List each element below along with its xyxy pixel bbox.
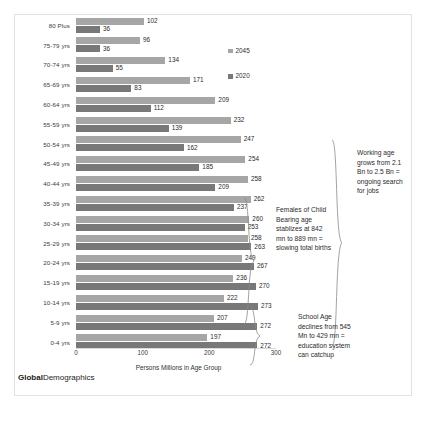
bar-2045 (76, 57, 165, 64)
bar-2045 (76, 77, 190, 84)
bar-2045 (76, 136, 241, 143)
bar-2045 (76, 117, 231, 124)
bar-value-label: 232 (234, 117, 245, 123)
bar-value-label: 254 (248, 156, 259, 162)
category-label: 65-69 yrs (14, 82, 76, 88)
bar-value-label: 36 (103, 46, 110, 52)
bar-2045 (76, 275, 233, 282)
x-tick-label: 300 (271, 350, 282, 356)
bar-value-label: 96 (143, 37, 150, 43)
legend-item-2045: 2045 (228, 48, 288, 54)
x-tick-label: 100 (137, 350, 148, 356)
bar-value-label: 185 (202, 164, 213, 170)
chart-row: 30-34 yrs260253 (14, 214, 276, 234)
category-label: 15-19 yrs (14, 280, 76, 286)
legend-label: 2045 (236, 48, 250, 54)
bar-2045 (76, 255, 242, 262)
category-label: 0-4 yrs (14, 340, 76, 346)
bar-2020 (76, 263, 254, 270)
bar-2045 (76, 156, 245, 163)
females-child-bearing-note: Females of Child Bearing age stablizes a… (276, 205, 332, 253)
row-bars: 10236 (76, 16, 276, 36)
bar-value-label: 258 (251, 176, 262, 182)
category-label: 50-54 yrs (14, 142, 76, 148)
bar-2020 (76, 105, 151, 112)
bar-value-label: 162 (187, 145, 198, 151)
legend: 2045 2020 (228, 48, 288, 99)
bar-2020 (76, 184, 215, 191)
school-age-note: School Age declines from 545 Mn to 429 m… (298, 312, 358, 360)
chart-row: 55-59 yrs232139 (14, 115, 276, 135)
bar-value-label: 197 (210, 334, 221, 340)
bar-2020 (76, 45, 100, 52)
bar-2020 (76, 224, 245, 231)
bar-2020 (76, 144, 184, 151)
bar-value-label: 270 (259, 283, 270, 289)
category-label: 40-44 yrs (14, 181, 76, 187)
bar-value-label: 209 (218, 184, 229, 190)
bar-2020 (76, 323, 257, 330)
bar-value-label: 102 (147, 18, 158, 24)
x-tick-label: 0 (74, 350, 78, 356)
category-label: 20-24 yrs (14, 260, 76, 266)
category-label: 35-39 yrs (14, 201, 76, 207)
chart-row: 80 Plus10236 (14, 16, 276, 36)
category-label: 10-14 yrs (14, 300, 76, 306)
chart-row: 25-29 yrs258263 (14, 234, 276, 254)
bar-2020 (76, 164, 199, 171)
bar-2020 (76, 283, 256, 290)
category-label: 25-29 yrs (14, 241, 76, 247)
brand-bold: Global (18, 373, 43, 382)
category-label: 70-74 yrs (14, 62, 76, 68)
legend-item-2020: 2020 (228, 73, 288, 79)
row-bars: 258209 (76, 174, 276, 194)
working-age-note: Working age grows from 2.1 Bn to 2.5 Bn … (357, 148, 409, 196)
bar-2045 (76, 216, 249, 223)
legend-swatch-icon (228, 74, 233, 79)
chart-row: 35-39 yrs262237 (14, 194, 276, 214)
x-axis-line (76, 348, 276, 349)
category-label: 60-64 yrs (14, 102, 76, 108)
bar-2020 (76, 65, 113, 72)
brand-logo: GlobalDemographics (18, 374, 94, 382)
row-bars: 232139 (76, 115, 276, 135)
bar-value-label: 207 (217, 315, 228, 321)
category-label: 30-34 yrs (14, 221, 76, 227)
bar-value-label: 171 (193, 77, 204, 83)
legend-swatch-icon (228, 49, 233, 54)
bar-value-label: 36 (103, 26, 110, 32)
bar-value-label: 273 (261, 303, 272, 309)
chart-row: 50-54 yrs247162 (14, 135, 276, 155)
bar-2045 (76, 176, 248, 183)
category-label: 80 Plus (14, 23, 76, 29)
bar-2020 (76, 125, 169, 132)
bar-value-label: 55 (116, 65, 123, 71)
chart-row: 40-44 yrs258209 (14, 174, 276, 194)
category-label: 45-49 yrs (14, 161, 76, 167)
bar-2020 (76, 26, 100, 33)
bar-2020 (76, 303, 258, 310)
bar-2045 (76, 97, 215, 104)
bar-2045 (76, 196, 251, 203)
bar-value-label: 139 (172, 125, 183, 131)
bar-2045 (76, 334, 207, 341)
row-bars: 254185 (76, 155, 276, 175)
chart-row: 20-24 yrs249267 (14, 254, 276, 274)
category-label: 75-79 yrs (14, 43, 76, 49)
bar-value-label: 247 (244, 136, 255, 142)
chart-row: 15-19 yrs236270 (14, 273, 276, 293)
chart-row: 5-9 yrs207272 (14, 313, 276, 333)
bar-value-label: 267 (257, 263, 268, 269)
chart-row: 10-14 yrs222273 (14, 293, 276, 313)
category-label: 5-9 yrs (14, 320, 76, 326)
chart-row: 45-49 yrs254185 (14, 155, 276, 175)
bar-2045 (76, 37, 140, 44)
brace-school-age-icon (248, 305, 262, 367)
bar-value-label: 112 (154, 105, 164, 111)
x-tick-label: 200 (204, 350, 215, 356)
brand-light: Demographics (43, 373, 95, 382)
chart-screenshot: 80 Plus1023675-79 yrs963670-74 yrs134556… (0, 0, 433, 425)
bar-2045 (76, 315, 214, 322)
bar-value-label: 222 (227, 295, 238, 301)
legend-label: 2020 (236, 73, 250, 79)
